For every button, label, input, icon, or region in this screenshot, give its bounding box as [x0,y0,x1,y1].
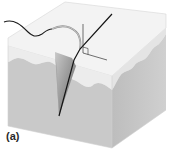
panel-label: (a) [6,130,19,142]
skin-suture-diagram [0,0,169,164]
